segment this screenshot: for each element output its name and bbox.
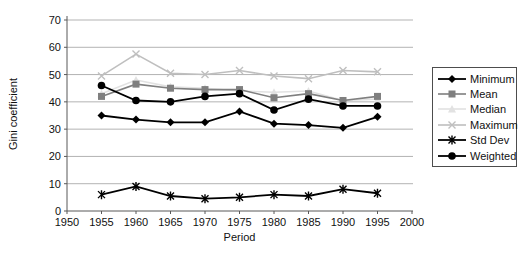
series-std-dev	[98, 182, 381, 203]
x-tick-label: 1980	[262, 216, 286, 228]
x-axis-ticks: 1950195519601965197019751980198519901995…	[55, 211, 424, 228]
square-marker-icon	[438, 88, 466, 100]
legend-item-mean: Mean	[438, 86, 516, 101]
y-axis-title: Gini coefficient	[7, 68, 19, 160]
legend-label: Weighted	[470, 150, 516, 162]
x-tick-label: 1990	[331, 216, 355, 228]
y-tick-label: 50	[49, 69, 61, 81]
x-tick-label: 1965	[158, 216, 182, 228]
x-tick-label: 2000	[400, 216, 424, 228]
x-axis-title: Period	[67, 231, 412, 243]
series-maximum	[98, 51, 381, 83]
legend-label: Maximum	[470, 119, 518, 131]
x-tick-label: 1975	[227, 216, 251, 228]
legend-label: Mean	[470, 88, 498, 100]
y-tick-label: 40	[49, 96, 61, 108]
series-minimum	[98, 107, 382, 131]
y-axis-ticks: 010203040506070	[49, 14, 67, 217]
y-tick-label: 70	[49, 14, 61, 26]
x-marker-icon	[438, 119, 466, 131]
legend: MinimumMeanMedianMaximumStd DevWeighted	[432, 67, 517, 167]
legend-label: Std Dev	[470, 134, 509, 146]
gridlines	[67, 20, 413, 184]
diamond-marker-icon	[438, 73, 466, 85]
x-tick-label: 1995	[365, 216, 389, 228]
gini-coefficient-chart: 0102030405060701950195519601965197019751…	[0, 0, 531, 267]
y-tick-label: 10	[49, 178, 61, 190]
x-tick-label: 1960	[124, 216, 148, 228]
y-tick-label: 60	[49, 41, 61, 53]
star-marker-icon	[438, 134, 466, 146]
x-tick-label: 1985	[296, 216, 320, 228]
legend-item-minimum: Minimum	[438, 71, 516, 86]
legend-item-weighted: Weighted	[438, 148, 516, 163]
y-tick-label: 30	[49, 123, 61, 135]
legend-item-median: Median	[438, 102, 516, 117]
legend-item-maximum: Maximum	[438, 117, 516, 132]
legend-label: Minimum	[470, 73, 515, 85]
triangle-marker-icon	[438, 103, 466, 115]
y-tick-label: 20	[49, 150, 61, 162]
circle-marker-icon	[438, 150, 466, 162]
x-tick-label: 1970	[193, 216, 217, 228]
x-tick-label: 1950	[55, 216, 79, 228]
legend-label: Median	[470, 103, 506, 115]
legend-item-std-dev: Std Dev	[438, 133, 516, 148]
x-tick-label: 1955	[89, 216, 113, 228]
